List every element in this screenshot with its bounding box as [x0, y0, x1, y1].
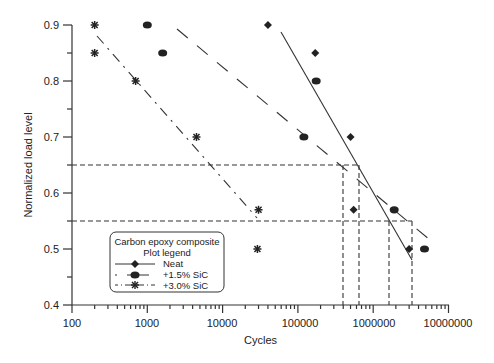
y-axis-label: Normalized load level: [22, 112, 34, 217]
y-axis: [63, 25, 72, 305]
x-tick-10000000: 10000000: [424, 317, 473, 329]
star-marker-icon: [132, 77, 140, 85]
legend-subtitle: Plot legend: [143, 247, 191, 258]
x-tick-1000: 1000: [135, 317, 159, 329]
diamond-marker-icon: [311, 49, 319, 57]
diamond-marker-icon: [347, 133, 355, 141]
diamond-marker-icon: [350, 206, 358, 214]
y-tick-labels: 0.9 0.8 0.7 0.6 0.5 0.4: [44, 19, 59, 311]
legend-entry-neat: Neat: [163, 258, 183, 269]
legend-title: Carbon epoxy composite: [114, 236, 219, 247]
star-marker-icon: [253, 245, 261, 253]
x-tick-1000000: 1000000: [353, 317, 396, 329]
circle-marker-icon: [390, 206, 399, 213]
legend-entry-sic15: +1.5% SiC: [163, 269, 208, 280]
data-points: [91, 21, 429, 253]
x-axis-label: Cycles: [244, 334, 278, 346]
y-tick-0.9: 0.9: [44, 19, 59, 31]
star-marker-icon: [255, 206, 263, 214]
star-marker-icon: [91, 21, 99, 29]
x-tick-100000: 100000: [282, 317, 319, 329]
y-tick-0.8: 0.8: [44, 75, 59, 87]
x-tick-10000: 10000: [207, 317, 238, 329]
legend: Carbon epoxy composite Plot legend Neat …: [110, 232, 224, 292]
circle-marker-icon: [420, 245, 429, 252]
sn-fatigue-chart: 0.9 0.8 0.7 0.6 0.5 0.4 100 1000 10000 1…: [0, 0, 494, 363]
x-tick-100: 100: [63, 317, 81, 329]
circle-marker-icon: [143, 21, 152, 28]
legend-entry-sic30: +3.0% SiC: [163, 280, 208, 291]
circle-marker-icon: [158, 49, 167, 56]
star-marker-icon: [131, 281, 139, 289]
sic30-fit-line: [97, 36, 257, 218]
y-tick-0.7: 0.7: [44, 131, 59, 143]
y-tick-0.6: 0.6: [44, 187, 59, 199]
circle-marker-icon: [299, 133, 308, 140]
star-marker-icon: [91, 49, 99, 57]
neat-fit-line: [281, 32, 412, 260]
circle-marker-icon: [131, 272, 140, 279]
diamond-marker-icon: [264, 21, 272, 29]
x-tick-labels: 100 1000 10000 100000 1000000 10000000: [63, 317, 473, 329]
circle-marker-icon: [312, 77, 321, 84]
x-axis: [72, 305, 449, 313]
y-tick-0.5: 0.5: [44, 243, 59, 255]
y-tick-0.4: 0.4: [44, 299, 59, 311]
star-marker-icon: [192, 133, 200, 141]
